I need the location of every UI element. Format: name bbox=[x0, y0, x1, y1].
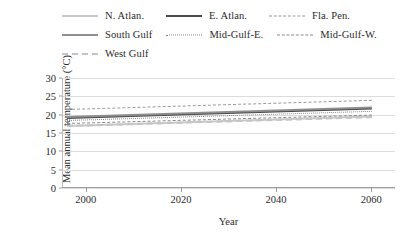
legend-item-label: E. Atlan. bbox=[209, 10, 247, 21]
legend-row: West Gulf bbox=[62, 44, 410, 63]
y-axis-tick-label: 0 bbox=[30, 183, 56, 194]
legend-item-south-gulf[interactable]: South Gulf bbox=[62, 29, 152, 40]
y-axis-tick-label: 15 bbox=[30, 128, 56, 139]
legend-row: South GulfMid-Gulf-E.Mid-Gulf-W. bbox=[62, 25, 410, 44]
plot-area bbox=[62, 78, 395, 188]
chart-container: N. Atlan.E. Atlan.Fla. Pen.South GulfMid… bbox=[0, 0, 412, 238]
legend-line-swatch bbox=[166, 30, 202, 40]
legend-item-label: Fla. Pen. bbox=[312, 10, 350, 21]
legend-item-mid-gulf-w[interactable]: Mid-Gulf-W. bbox=[277, 29, 376, 40]
x-axis-title: Year bbox=[62, 216, 395, 227]
legend-line-swatch bbox=[62, 11, 98, 21]
legend-item-n-atlan[interactable]: N. Atlan. bbox=[62, 10, 144, 21]
legend-row: N. Atlan.E. Atlan.Fla. Pen. bbox=[62, 6, 410, 25]
y-axis-tick-label: 5 bbox=[30, 164, 56, 175]
legend-item-fla-pen[interactable]: Fla. Pen. bbox=[269, 10, 350, 21]
x-axis-tick-label: 2060 bbox=[361, 194, 382, 205]
legend-line-swatch bbox=[62, 30, 98, 40]
chart-legend: N. Atlan.E. Atlan.Fla. Pen.South GulfMid… bbox=[62, 6, 410, 63]
y-axis-tick-labels: 051015202530 bbox=[30, 78, 56, 188]
y-axis-tick-label: 25 bbox=[30, 91, 56, 102]
legend-item-west-gulf[interactable]: West Gulf bbox=[62, 48, 149, 59]
legend-item-label: South Gulf bbox=[105, 29, 152, 40]
series-layer bbox=[62, 78, 395, 188]
legend-item-label: N. Atlan. bbox=[105, 10, 144, 21]
y-axis-tick-label: 20 bbox=[30, 109, 56, 120]
legend-item-e-atlan[interactable]: E. Atlan. bbox=[166, 10, 247, 21]
y-axis-tick-label: 10 bbox=[30, 146, 56, 157]
x-axis-tick-label: 2040 bbox=[266, 194, 287, 205]
legend-line-swatch bbox=[277, 30, 313, 40]
x-axis-tick-label: 2000 bbox=[75, 194, 96, 205]
legend-item-mid-gulf-e[interactable]: Mid-Gulf-E. bbox=[166, 29, 263, 40]
x-axis-tick-mark bbox=[86, 188, 87, 192]
legend-line-swatch bbox=[269, 11, 305, 21]
legend-item-label: Mid-Gulf-E. bbox=[209, 29, 263, 40]
x-axis-tick-mark bbox=[371, 188, 372, 192]
legend-item-label: West Gulf bbox=[105, 48, 149, 59]
x-axis-tick-mark bbox=[181, 188, 182, 192]
x-axis-tick-label: 2020 bbox=[170, 194, 191, 205]
y-axis-tick-label: 30 bbox=[30, 73, 56, 84]
legend-line-swatch bbox=[166, 11, 202, 21]
x-axis-tick-mark bbox=[276, 188, 277, 192]
x-axis-tick-labels: 2000202020402060 bbox=[62, 194, 395, 208]
x-axis-tick-marks bbox=[62, 188, 395, 193]
legend-item-label: Mid-Gulf-W. bbox=[320, 29, 376, 40]
